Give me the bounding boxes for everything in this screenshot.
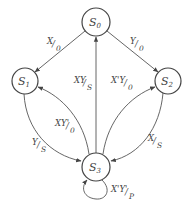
edge-s3-to-s2 (103, 87, 155, 154)
state-diagram: S0 S1 S2 S3 X / 0 Y / 0 XY / S (0, 0, 193, 212)
state-diagram-canvas: S0 S1 S2 S3 X / 0 Y / 0 XY / S (0, 0, 193, 212)
svg-text:P: P (128, 192, 135, 201)
label-y-0: Y / 0 (130, 36, 144, 53)
svg-text:S: S (157, 141, 162, 150)
edge-s3-self-loop (84, 180, 108, 199)
svg-text:S: S (87, 83, 92, 92)
state-s0: S0 (82, 8, 110, 36)
state-s2: S2 (155, 68, 181, 94)
svg-text:0: 0 (56, 44, 61, 53)
state-s3: S3 (82, 153, 110, 181)
label-xy-prime-0: XY' / 0 (54, 118, 75, 135)
label-xy-s: XY / S (73, 75, 92, 92)
edge-s2-to-s3 (111, 93, 163, 161)
label-x-prime-y-0: X'Y / 0 (110, 75, 133, 92)
svg-text:S: S (41, 145, 46, 154)
label-x-s: X / S (147, 133, 162, 150)
label-x-prime-y-prime-p: X'Y' / P (110, 184, 135, 201)
label-x-0: X / 0 (46, 36, 61, 53)
state-s1: S1 (12, 68, 38, 94)
svg-text:0: 0 (128, 83, 133, 92)
svg-text:0: 0 (139, 44, 144, 53)
label-y-s: Y / S (32, 137, 46, 154)
svg-text:0: 0 (70, 126, 75, 135)
